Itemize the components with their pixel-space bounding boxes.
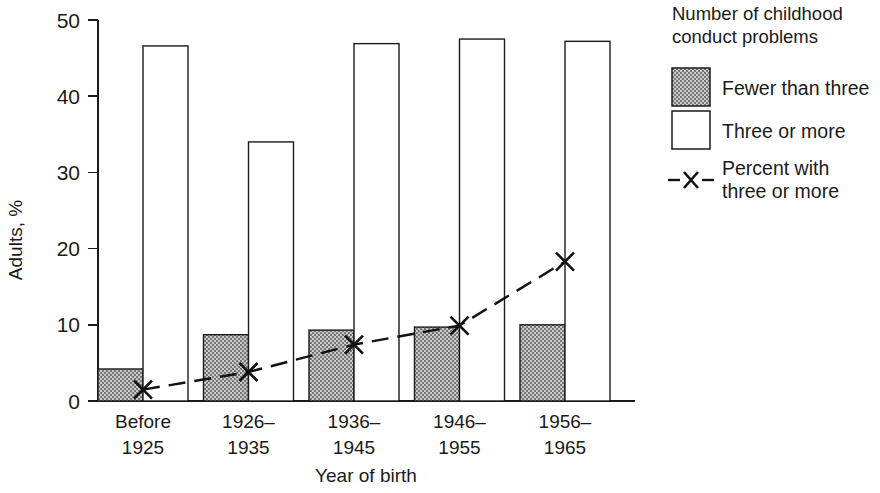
legend-label-percent-line-2: three or more: [722, 180, 839, 202]
x-axis-category-labels: Before19251926–19351936–19451946–1955195…: [115, 411, 592, 458]
y-tick-label: 10: [57, 313, 80, 336]
legend-label-fewer-than-three: Fewer than three: [722, 77, 869, 99]
y-tick-label: 20: [57, 237, 80, 260]
grouped-bar-chart-with-trend-line: 01020304050 Before19251926–19351936–1945…: [0, 0, 880, 493]
legend-swatch-shaded-square: [672, 68, 710, 106]
x-axis-category-label: 1965: [544, 437, 586, 458]
x-axis-title: Year of birth: [315, 465, 417, 486]
legend-title-line-1: Number of childhood: [672, 3, 843, 24]
x-axis-category-label: 1946–: [433, 411, 486, 432]
bar-three-or-more: [460, 39, 505, 401]
y-axis-title: Adults, %: [5, 200, 26, 280]
legend-label-percent-line-1: Percent with: [722, 157, 829, 179]
bar-fewer-than-three: [204, 335, 249, 401]
x-axis-category-label: 1956–: [539, 411, 592, 432]
x-axis-category-label: Before: [115, 411, 171, 432]
x-axis-category-label: 1935: [227, 437, 269, 458]
x-axis-category-label: 1955: [438, 437, 480, 458]
bar-three-or-more: [565, 41, 610, 401]
bar-three-or-more: [354, 44, 399, 401]
x-axis-category-label: 1936–: [328, 411, 381, 432]
bar-fewer-than-three: [309, 330, 354, 401]
bar-three-or-more: [143, 46, 188, 401]
chart-figure: 01020304050 Before19251926–19351936–1945…: [0, 0, 880, 493]
legend-title-line-2: conduct problems: [672, 26, 818, 47]
y-tick-label: 30: [57, 161, 80, 184]
bar-fewer-than-three: [520, 325, 565, 401]
y-tick-label: 50: [57, 9, 80, 32]
x-axis-category-label: 1945: [333, 437, 375, 458]
y-axis-ticks: 01020304050: [57, 9, 98, 413]
legend-swatch-open-square: [672, 111, 710, 149]
y-tick-label: 0: [68, 390, 80, 413]
x-axis-category-label: 1926–: [222, 411, 275, 432]
y-tick-label: 40: [57, 85, 80, 108]
x-axis-category-label: 1925: [122, 437, 164, 458]
legend-item-fewer-than-three[interactable]: Fewer than three: [672, 68, 869, 106]
legend-item-percent-with-three-or-more[interactable]: Percent with three or more: [668, 157, 839, 202]
legend-dashed-x-marker-icon: [668, 172, 714, 188]
bar-fewer-than-three: [415, 327, 460, 401]
bars-layer: [98, 39, 610, 401]
legend-label-three-or-more: Three or more: [722, 120, 846, 142]
chart-legend: Number of childhood conduct problems Few…: [668, 3, 869, 202]
legend-item-three-or-more[interactable]: Three or more: [672, 111, 846, 149]
